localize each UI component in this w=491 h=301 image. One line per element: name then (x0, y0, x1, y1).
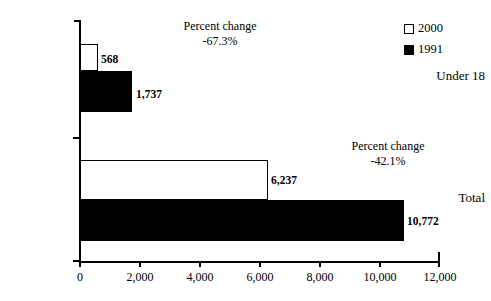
x-axis-tick-10000 (379, 261, 381, 267)
bar-total-2000 (80, 160, 268, 200)
annotation-under18: Percent change -67.3% (184, 19, 257, 49)
black-square-icon (404, 45, 414, 55)
legend-label-1991: 1991 (418, 42, 443, 57)
x-axis-tick-4000 (199, 261, 201, 267)
annotation-under18-title: Percent change (184, 19, 257, 34)
bar-total-1991 (80, 200, 404, 241)
x-axis-tick-8000 (319, 261, 321, 267)
bar-value-under18-1991: 1,737 (136, 88, 162, 100)
bar-value-total-2000: 6,237 (271, 174, 297, 186)
bar-value-total-1991: 10,772 (407, 215, 439, 227)
x-axis-tick-12000 (438, 261, 440, 267)
bar-under18-2000 (80, 44, 98, 71)
legend-label-2000: 2000 (418, 21, 443, 36)
bar-under18-1991 (80, 71, 132, 112)
annotation-total-title: Percent change (352, 139, 425, 154)
x-axis-tick-2000 (139, 261, 141, 267)
legend-item-2000: 2000 (404, 20, 443, 37)
white-square-icon (404, 24, 414, 34)
category-label-total: Total (417, 190, 491, 206)
y-axis-top-cap (74, 20, 80, 22)
x-axis-label-8000: 8,000 (307, 270, 334, 285)
x-axis-label-12000: 12,000 (424, 270, 457, 285)
annotation-total-value: -42.1% (352, 154, 425, 169)
x-axis-label-2000: 2,000 (127, 270, 154, 285)
legend: 2000 1991 (404, 20, 443, 62)
bar-chart: 0 2,000 4,000 6,000 8,000 10,000 12,000 … (0, 0, 491, 301)
x-axis-label-4000: 4,000 (187, 270, 214, 285)
x-axis-label-0: 0 (77, 270, 83, 285)
x-axis-tick-0 (79, 261, 81, 267)
bar-value-under18-2000: 568 (101, 53, 118, 65)
y-axis-tick-separator (73, 137, 80, 139)
legend-item-1991: 1991 (404, 41, 443, 58)
x-axis-label-10000: 10,000 (364, 270, 397, 285)
x-axis-label-6000: 6,000 (247, 270, 274, 285)
category-label-under-18: Under 18 (417, 68, 491, 84)
annotation-total: Percent change -42.1% (352, 139, 425, 169)
x-axis-tick-6000 (259, 261, 261, 267)
annotation-under18-value: -67.3% (184, 34, 257, 49)
